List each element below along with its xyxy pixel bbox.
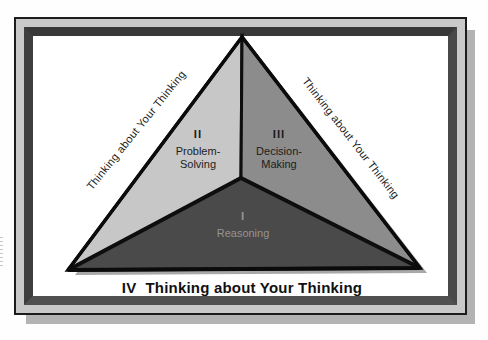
figure-caption-text: Thinking about Your Thinking (145, 279, 362, 296)
label-reasoning-line1: Reasoning (217, 227, 270, 240)
page-edge-artifact (0, 237, 3, 269)
figure-page: Thinking about Your Thinking Thinking ab… (0, 0, 488, 340)
label-reasoning-numeral: I (217, 210, 270, 223)
figure-caption: IVThinking about Your Thinking (122, 279, 362, 296)
label-problem-solving-line1: Problem- (176, 145, 221, 158)
label-decision-making-numeral: III (256, 128, 302, 141)
label-problem-solving-numeral: II (176, 128, 221, 141)
label-reasoning: I Reasoning (217, 210, 270, 240)
label-decision-making-line1: Decision- (256, 145, 302, 158)
label-problem-solving: II Problem- Solving (176, 128, 221, 171)
label-decision-making: III Decision- Making (256, 128, 302, 171)
figure-caption-numeral: IV (122, 279, 137, 296)
label-decision-making-line2: Making (256, 158, 302, 171)
label-problem-solving-line2: Solving (176, 158, 221, 171)
